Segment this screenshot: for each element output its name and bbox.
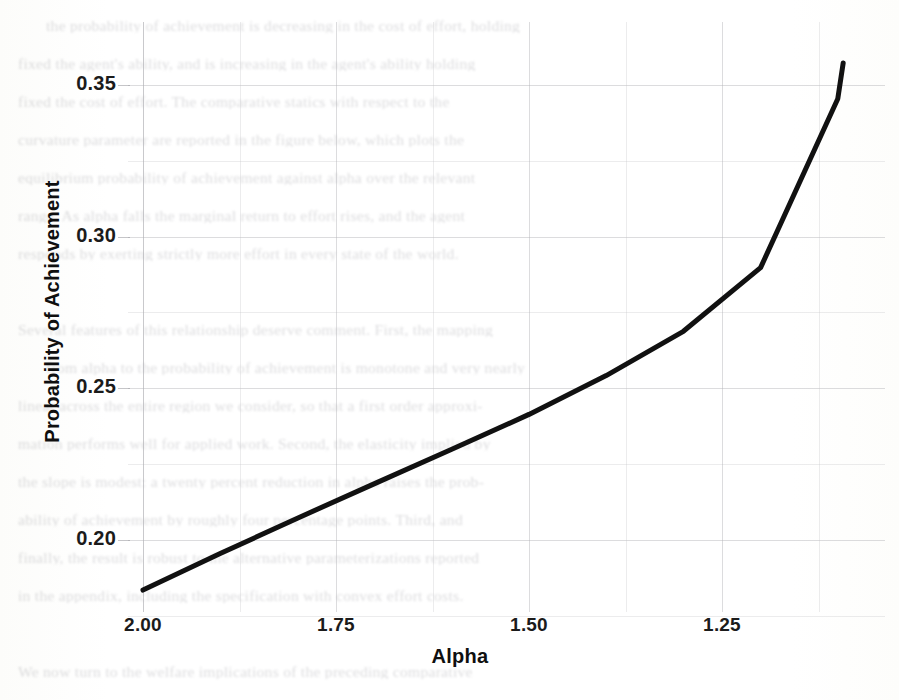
y-axis-title: Probability of Achievement xyxy=(41,142,64,482)
scanned-page: the probability of achievement is decrea… xyxy=(0,0,899,700)
x-axis-title: Alpha xyxy=(380,645,540,668)
chart-plot-area: 0.350.300.250.20 2.001.751.501.25 Probab… xyxy=(0,0,899,700)
chart-series-line xyxy=(0,0,899,700)
